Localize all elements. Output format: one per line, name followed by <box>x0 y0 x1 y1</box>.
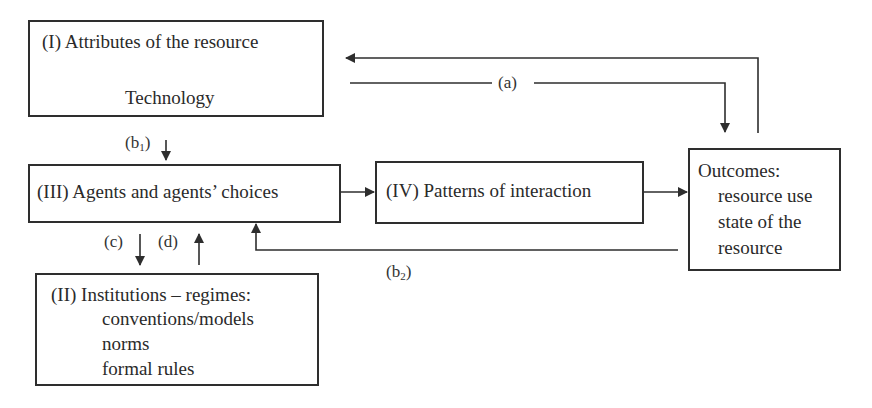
outcomes-item-resource: resource <box>718 237 782 259</box>
edge-label-a: (a) <box>498 73 517 93</box>
outcomes-title: Outcomes: <box>698 160 780 182</box>
agents-title: (III) Agents and agents’ choices <box>37 181 278 203</box>
institutions-item-conventions: conventions/models <box>102 308 254 330</box>
attributes-title: (I) Attributes of the resource <box>42 31 258 53</box>
edge-label-b1: (b1) <box>125 133 150 157</box>
institutions-title: (II) Institutions – regimes: <box>51 284 251 306</box>
edge-label-b2: (b2) <box>386 262 411 286</box>
patterns-title: (IV) Patterns of interaction <box>386 180 591 202</box>
edge-label-c: (c) <box>104 232 123 252</box>
technology-label: Technology <box>125 87 214 109</box>
arrow-b2-to-agents <box>256 224 678 250</box>
outcomes-item-state-of-the: state of the <box>718 211 801 233</box>
institutions-item-formal-rules: formal rules <box>102 358 194 380</box>
arrow-a-to-outcomes <box>534 83 725 132</box>
arrow-outcomes-to-attributes <box>346 58 758 133</box>
outcomes-item-resource-use: resource use <box>718 185 812 207</box>
institutions-item-norms: norms <box>102 333 150 355</box>
edge-label-d: (d) <box>158 232 178 252</box>
